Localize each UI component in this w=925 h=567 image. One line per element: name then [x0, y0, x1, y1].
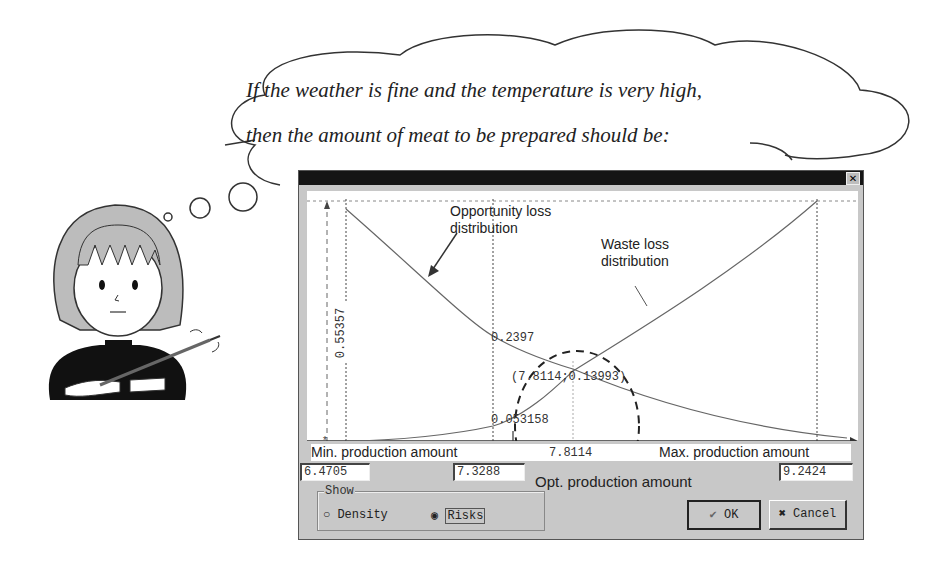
waste-loss-line1: Waste loss: [601, 236, 669, 253]
radio-density-label: Density: [337, 508, 387, 522]
show-group-title: Show: [324, 484, 355, 498]
ok-label: OK: [724, 508, 738, 522]
close-icon: ✕: [849, 173, 857, 184]
dialog-titlebar[interactable]: ✕: [299, 171, 863, 185]
thought-line-1: If the weather is fine and the temperatu…: [246, 78, 702, 103]
min-production-label: Min. production amount: [311, 444, 457, 460]
waste-loss-label: Waste loss distribution: [601, 236, 669, 270]
ok-button[interactable]: ✔ OK: [687, 500, 761, 530]
opportunity-loss-line1: Opportunity loss: [450, 203, 551, 220]
opt-x-label: 7.8114: [549, 446, 592, 460]
checkmark-icon: ✔: [710, 508, 717, 522]
cancel-button[interactable]: ✖ Cancel: [769, 500, 847, 530]
risk-chart: *: [307, 191, 858, 441]
mid-value-input[interactable]: 7.3288: [453, 463, 525, 481]
max-value-input[interactable]: 9.2424: [779, 463, 853, 481]
max-production-label: Max. production amount: [659, 444, 809, 460]
plot-area: * Opportunity loss distribution Waste lo…: [307, 191, 858, 441]
opportunity-loss-line2: distribution: [450, 220, 551, 237]
radio-risks-label: Risks: [445, 508, 485, 524]
waste-loss-line2: distribution: [601, 253, 669, 270]
opportunity-loss-label: Opportunity loss distribution: [450, 203, 551, 237]
cancel-label: Cancel: [793, 507, 836, 521]
risk-dialog: ✕: [298, 170, 864, 540]
teacher-illustration-icon: [40, 190, 230, 405]
crossing-point-label: (7.8114;0.13993): [511, 370, 626, 384]
radio-checked-icon: ◉: [431, 509, 438, 523]
opp-at-mid-label: 0.2397: [491, 331, 534, 345]
close-button[interactable]: ✕: [846, 172, 860, 185]
radio-density[interactable]: ○ Density: [323, 508, 388, 522]
opt-production-label: Opt. production amount: [535, 473, 692, 490]
y-max-label: 0.55357: [334, 303, 348, 363]
min-value-input[interactable]: 6.4705: [300, 463, 370, 481]
radio-unchecked-icon: ○: [323, 508, 330, 522]
scene: If the weather is fine and the temperatu…: [0, 0, 925, 567]
waste-at-mid-label: 0.053158: [491, 413, 549, 427]
svg-text:*: *: [323, 435, 327, 441]
cancel-x-icon: ✖: [779, 507, 786, 521]
thought-line-2: then the amount of meat to be prepared s…: [246, 123, 670, 148]
radio-risks[interactable]: ◉ Risks: [431, 508, 485, 523]
